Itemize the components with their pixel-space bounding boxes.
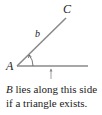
caption-line-1: B lies along this side [6, 82, 97, 96]
vertex-c-label: C [63, 2, 71, 17]
caption: B lies along this side if a triangle exi… [6, 82, 97, 110]
side-b-line [17, 18, 66, 66]
caption-line-2: if a triangle exists. [6, 96, 97, 110]
side-b-label: b [35, 28, 40, 39]
point-b-label: B [6, 83, 13, 95]
pointer-arrow-icon [50, 69, 53, 72]
vertex-a-label: A [6, 59, 13, 74]
